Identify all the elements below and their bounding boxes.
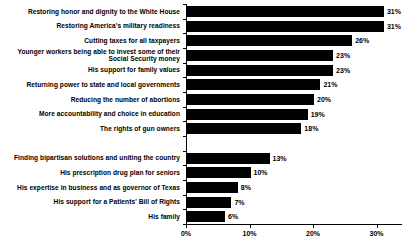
bar [187,109,308,120]
bar-value-label: 7% [234,199,244,206]
category-label: Finding bipartisan solutions and uniting… [0,151,183,166]
x-axis-tick-label: 30% [370,230,384,237]
category-label: His support for a Patients' Bill of Righ… [0,195,183,210]
category-label-text: Restoring America's military readiness [57,22,183,30]
y-axis-tick [183,121,186,122]
x-axis-line [186,224,402,225]
bar-value-label: 20% [317,96,331,103]
category-label-text: His prescription drug plan for seniors [60,169,183,177]
x-axis-tick-label: 0% [181,230,191,237]
y-axis-tick [183,63,186,64]
category-label-text: More accountability and choice in educat… [39,110,183,118]
y-axis-tick [183,151,186,152]
bar-row: 13% [187,153,287,164]
bar [187,65,333,76]
y-axis-tick [183,136,186,137]
bar-value-label: 21% [323,81,337,88]
x-axis-tick [250,225,251,228]
bar-row: 6% [187,211,238,222]
y-axis-tick [183,19,186,20]
category-label-text: Cutting taxes for all taxpayers [84,37,183,45]
x-axis-tick [313,225,314,228]
x-axis-tick-label: 20% [306,230,320,237]
bar [187,21,384,32]
category-label: Restoring America's military readiness [0,19,183,34]
y-axis-tick [183,33,186,34]
category-label-text: Returning power to state and local gover… [26,81,183,89]
bar [187,94,314,105]
bar [187,6,384,17]
category-label: His support for family values [0,63,183,78]
bar-value-label: 23% [336,67,350,74]
plot-area: 31%31%26%23%23%21%20%19%18%13%10%8%7%6%0… [186,4,402,224]
y-axis-tick [183,77,186,78]
bar-value-label: 10% [254,169,268,176]
bar-value-label: 6% [228,213,238,220]
bar-row: 19% [187,109,325,120]
bar-row: 31% [187,6,401,17]
category-label: More accountability and choice in educat… [0,107,183,122]
bar [187,79,320,90]
category-label-text: Restoring honor and dignity to the White… [28,8,183,16]
bar-row: 31% [187,21,401,32]
y-axis-tick [183,195,186,196]
bar-row: 18% [187,123,318,134]
category-label-text: Younger workers being able to invest som… [18,48,184,63]
x-axis-tick [377,225,378,228]
category-label: Returning power to state and local gover… [0,77,183,92]
category-label: Restoring honor and dignity to the White… [0,4,183,19]
x-axis-tick-label: 10% [243,230,257,237]
bar-value-label: 31% [387,8,401,15]
bar-value-label: 18% [304,125,318,132]
y-axis-tick [183,180,186,181]
bar-row: 10% [187,167,268,178]
y-axis-tick [183,165,186,166]
category-label-text: Finding bipartisan solutions and uniting… [14,154,183,162]
category-label-text: Reducing the number of abortions [71,96,183,104]
y-axis-tick [183,48,186,49]
category-label-text: His support for family values [88,66,183,74]
bar [187,167,251,178]
bar-row: 7% [187,197,245,208]
bar-row: 26% [187,35,369,46]
bar-row: 23% [187,50,350,61]
y-axis-tick [183,209,186,210]
category-label: Younger workers being able to invest som… [0,48,183,63]
category-label-text: His support for a Patients' Bill of Righ… [54,198,183,206]
bar-row: 21% [187,79,337,90]
category-label-text: His family [148,213,183,221]
category-label: His prescription drug plan for seniors [0,165,183,180]
y-axis-tick [183,4,186,5]
bar [187,211,225,222]
bar-value-label: 31% [387,23,401,30]
bar-row: 23% [187,65,350,76]
bar [187,123,301,134]
bar [187,182,238,193]
horizontal-bar-chart: Restoring honor and dignity to the White… [0,0,408,248]
bar-value-label: 13% [273,155,287,162]
category-label: The rights of gun owners [0,121,183,136]
category-label: His expertise in business and as governo… [0,180,183,195]
bar-row: 8% [187,182,251,193]
category-label: His family [0,209,183,224]
category-label-spacer [0,136,183,151]
bar [187,35,352,46]
category-label: Reducing the number of abortions [0,92,183,107]
bar-value-label: 23% [336,52,350,59]
category-label-column: Restoring honor and dignity to the White… [0,4,183,224]
bar-value-label: 19% [311,111,325,118]
bar [187,153,270,164]
bar-row: 20% [187,94,331,105]
category-label-text: The rights of gun owners [100,125,183,133]
category-label-text: His expertise in business and as governo… [17,184,183,192]
category-label: Cutting taxes for all taxpayers [0,33,183,48]
bar [187,197,231,208]
bar-value-label: 8% [241,184,251,191]
x-axis-tick [186,225,187,228]
bar [187,50,333,61]
bar-value-label: 26% [355,37,369,44]
y-axis-tick [183,107,186,108]
y-axis-tick [183,92,186,93]
